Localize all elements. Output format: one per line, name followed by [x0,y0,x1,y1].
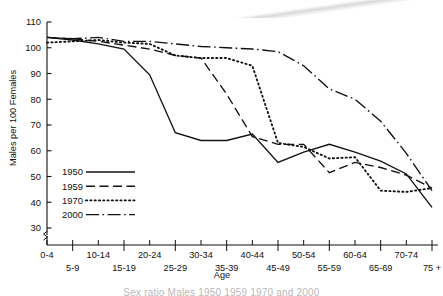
y-tick-label: 100 [25,42,41,53]
legend-label-1950: 1950 [62,166,83,177]
y-tick-label: 50 [31,171,41,182]
y-axis-title: Males per 100 Females [8,70,18,166]
x-tick-label: 50-54 [292,250,316,260]
chart-figure: 30405060708090100110 0-45-910-1415-1920-… [0,0,443,296]
legend-label-2000: 2000 [62,209,83,220]
x-tick-label: 15-19 [112,263,136,273]
line-chart: 30405060708090100110 0-45-910-1415-1920-… [0,0,443,296]
x-tick-label: 60-64 [343,250,367,260]
x-axis: 0-45-910-1415-1920-2425-2930-3435-3940-4… [40,240,441,273]
y-tick-label: 110 [26,16,41,27]
legend-label-1970: 1970 [62,195,83,206]
x-tick-label: 70-74 [395,250,419,260]
y-tick-label: 70 [31,119,41,130]
x-tick-label: 10-14 [87,250,111,260]
y-tick-label: 80 [31,94,41,105]
cropped-caption: Sex ratio Males 1950 1959 1970 and 2000 [0,288,443,296]
x-tick-label: 55-59 [318,263,342,273]
y-tick-label: 90 [31,68,41,79]
y-axis: 30405060708090100110 [25,16,51,245]
x-axis-title: Age [214,270,230,280]
series-line-1959 [47,37,432,188]
x-tick-label: 40-44 [241,250,265,260]
x-tick-label: 65-69 [369,263,393,273]
x-tick-label: 5-9 [66,263,79,273]
x-tick-label: 45-49 [266,263,290,273]
cropped-caption-text: Sex ratio Males 1950 1959 1970 and 2000 [0,288,443,296]
x-tick-label: 25-29 [164,263,188,273]
x-tick-label: 75 + [423,263,441,273]
data-series-group [47,37,432,207]
y-tick-label: 60 [31,145,41,156]
y-tick-label: 40 [31,197,41,208]
x-tick-label: 0-4 [40,250,53,260]
x-tick-label: 30-34 [189,250,213,260]
y-tick-label: 30 [31,222,41,233]
legend-label-1959: 1959 [62,181,83,192]
x-tick-label: 20-24 [138,250,162,260]
chart-legend: 1950195919702000 [62,166,135,220]
